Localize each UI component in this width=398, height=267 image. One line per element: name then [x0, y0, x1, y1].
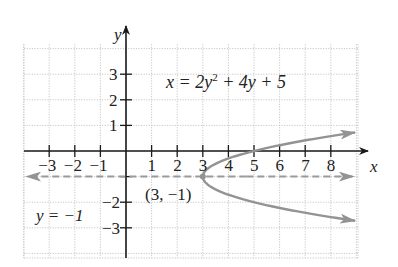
y-tick-label: 3 [109, 66, 118, 83]
x-tick-label: 2 [173, 157, 182, 174]
x-tick-label: 3 [199, 157, 208, 174]
x-tick-label: −2 [64, 157, 82, 174]
y-tick-label: 2 [109, 92, 118, 109]
x-tick-label: 8 [327, 157, 336, 174]
equation-rhs: + 4y + 5 [218, 72, 286, 92]
x-tick-label: 5 [250, 157, 259, 174]
x-tick-label: −1 [89, 157, 107, 174]
vertex-label: (3, −1) [145, 186, 191, 203]
graph-canvas [0, 0, 398, 267]
parabola-lower-branch [203, 177, 355, 221]
axis-of-symmetry-label: y = −1 [36, 207, 84, 224]
x-axis-label: x [370, 158, 378, 175]
x-tick-label: 6 [276, 157, 285, 174]
x-tick-label: 1 [148, 157, 157, 174]
equation-label: x = 2y2 + 4y + 5 [166, 72, 286, 91]
y-tick-label: 1 [109, 117, 118, 134]
x-tick-label: 4 [224, 157, 233, 174]
x-tick-label: 7 [301, 157, 310, 174]
parabola-graph: y x x = 2y2 + 4y + 5 (3, −1) y = −1 −3−2… [0, 0, 398, 267]
x-tick-label: −3 [38, 157, 56, 174]
equation-lhs: x = 2y [166, 72, 212, 92]
y-tick-label: −3 [102, 220, 120, 237]
y-axis-label: y [114, 26, 122, 43]
y-tick-label: −2 [102, 194, 120, 211]
